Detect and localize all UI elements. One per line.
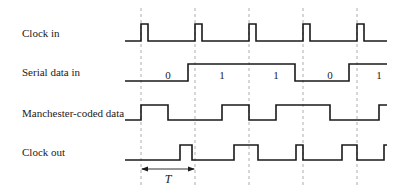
period-arrow (141, 167, 195, 172)
clock-in-waveform (125, 24, 387, 41)
bit-label: 1 (273, 70, 279, 81)
label-clock-in: Clock in (22, 28, 60, 39)
label-manchester-coded-data: Manchester-coded data (22, 108, 124, 119)
bit-label: 1 (219, 70, 225, 81)
bit-label: 0 (327, 70, 333, 81)
manchester-coded-data-waveform (125, 105, 387, 120)
timing-diagram (0, 0, 406, 193)
arrowhead-icon (141, 167, 148, 172)
period-label: T (165, 173, 172, 185)
label-clock-out: Clock out (22, 147, 65, 158)
arrowhead-icon (188, 167, 195, 172)
bit-label: 0 (165, 70, 171, 81)
label-serial-data-in: Serial data in (22, 67, 80, 78)
bit-label: 1 (376, 70, 382, 81)
clock-out-waveform (125, 145, 387, 160)
waveforms (125, 24, 387, 160)
